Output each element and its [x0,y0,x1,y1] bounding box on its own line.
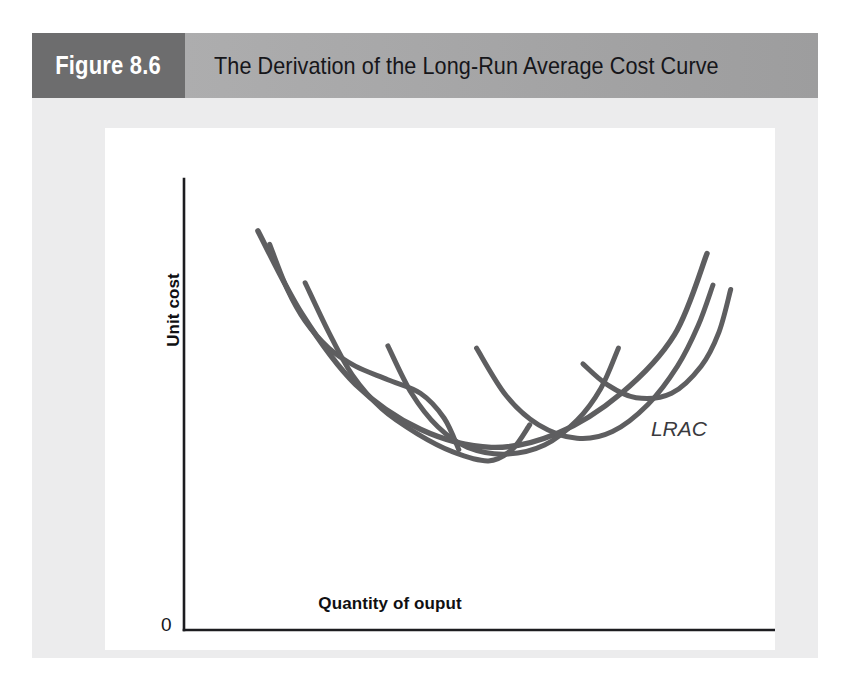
y-axis-title: Unit cost [164,235,184,385]
origin-label: 0 [161,614,172,636]
figure-number-block: Figure 8.6 [32,33,185,98]
plot-panel: LRAC Unit cost Quantity of ouput 0 [105,128,775,650]
cost-curve-plot: LRAC [105,128,775,650]
figure-card: Figure 8.6 The Derivation of the Long-Ru… [32,33,818,658]
figure-header: Figure 8.6 The Derivation of the Long-Ru… [32,33,818,98]
lrac-label: LRAC [651,417,708,440]
figure-number-label: Figure 8.6 [56,51,162,80]
srac-curve [305,283,530,461]
srac-curve [583,290,731,399]
figure-title: The Derivation of the Long-Run Average C… [214,52,719,80]
figure-title-block: The Derivation of the Long-Run Average C… [185,33,818,98]
x-axis-title: Quantity of ouput [105,594,675,614]
